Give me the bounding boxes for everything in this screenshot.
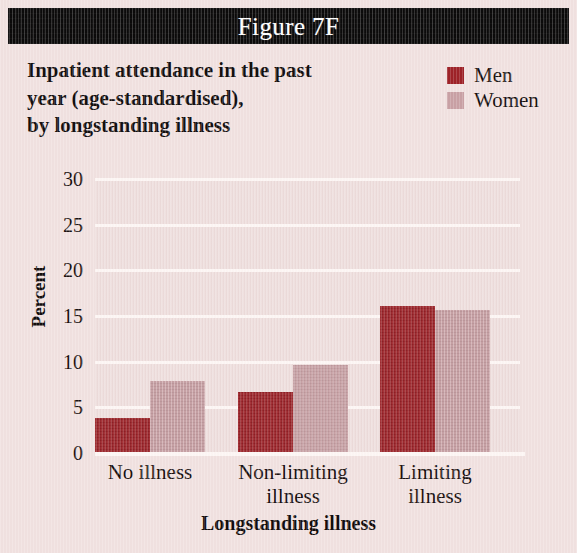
chart-title-line-1: Inpatient attendance in the past (27, 57, 357, 85)
legend-swatch-women-icon (447, 92, 464, 109)
bar-women-3 (435, 310, 490, 453)
x-axis-tick-label-line: Limiting (355, 461, 515, 485)
y-axis-tick-label: 10 (47, 352, 83, 372)
chart-title: Inpatient attendance in the past year (a… (27, 57, 357, 140)
chart-title-line-2: year (age-standardised), (27, 85, 357, 113)
legend-item-women: Women (447, 88, 539, 113)
figure-page: Figure 7F Inpatient attendance in the pa… (0, 0, 577, 553)
chart-legend: Men Women (447, 63, 539, 113)
bar-women-2 (293, 365, 348, 453)
y-axis-tick-label: 30 (47, 169, 83, 189)
x-axis-tick-label: Limitingillness (355, 461, 515, 508)
x-axis-tick-label-line: No illness (70, 461, 230, 485)
legend-label-men: Men (474, 65, 513, 86)
chart-title-line-3: by longstanding illness (27, 112, 357, 140)
gridline (95, 224, 520, 227)
x-axis-tick-label-line: illness (213, 485, 373, 509)
figure-banner: Figure 7F (8, 8, 569, 44)
x-axis-tick-label-line: illness (355, 485, 515, 509)
legend-swatch-men-icon (447, 67, 464, 84)
x-axis-tick-label: Non-limitingillness (213, 461, 373, 508)
plot-area (95, 179, 520, 453)
bar-women-1 (150, 381, 205, 453)
legend-item-men: Men (447, 63, 539, 88)
bar-men-2 (238, 392, 293, 453)
x-axis-tick-label: No illness (70, 461, 230, 485)
x-axis-baseline (95, 452, 525, 456)
y-axis-tick-label: 20 (47, 260, 83, 280)
bar-men-1 (95, 418, 150, 453)
x-axis-tick-label-line: Non-limiting (213, 461, 373, 485)
bar-men-3 (380, 306, 435, 453)
x-axis-label: Longstanding illness (0, 513, 577, 533)
legend-label-women: Women (474, 90, 539, 111)
figure-banner-label: Figure 7F (238, 14, 340, 39)
gridline (95, 178, 520, 181)
y-axis-tick-label: 0 (47, 443, 83, 463)
y-axis-tick-label: 25 (47, 215, 83, 235)
y-axis-tick-label: 15 (47, 306, 83, 326)
gridline (95, 269, 520, 272)
y-axis-tick-label: 5 (47, 397, 83, 417)
y-axis-label: Percent (29, 237, 48, 357)
